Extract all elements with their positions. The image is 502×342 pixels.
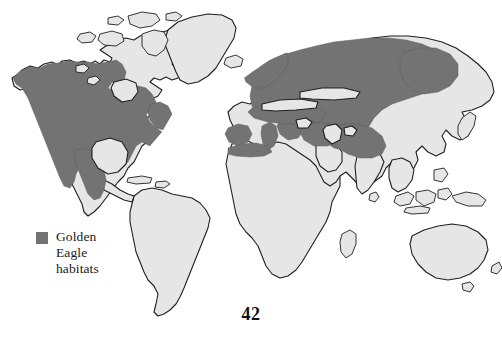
landmass-australia	[410, 224, 488, 280]
landmass-sulawesi	[438, 188, 452, 200]
golden-eagle-habitat-map-figure: .land { fill: #e6e6e6; stroke: #1f1f1f; …	[0, 0, 502, 342]
landmass-sumatra	[394, 192, 414, 206]
landmass-madagascar	[340, 230, 356, 258]
world-map: .land { fill: #e6e6e6; stroke: #1f1f1f; …	[0, 0, 502, 342]
landmass-tasmania	[462, 282, 474, 292]
landmass-ellesmere-island	[128, 12, 160, 28]
legend-label: Golden Eagle habitats	[56, 229, 99, 277]
landmass-hispaniola	[155, 181, 170, 188]
landmass-cuba	[127, 176, 152, 184]
landmass-sri-lanka	[369, 192, 379, 202]
landmass-java	[404, 206, 430, 214]
landmass-south-america	[130, 188, 210, 316]
landmass-new-guinea	[452, 192, 486, 206]
landmass-southeast-asia	[389, 158, 414, 192]
landmass-banks-island	[77, 32, 96, 43]
landmass-borneo	[416, 190, 436, 206]
page-number: 42	[0, 304, 502, 325]
landmass-philippines	[434, 168, 448, 182]
landmass-arctic-islet-b	[166, 12, 182, 21]
habitat-range-swatch	[36, 232, 48, 244]
map-legend: Golden Eagle habitats	[36, 229, 99, 277]
landmass-victoria-island	[98, 31, 124, 46]
landmass-iceland	[224, 55, 243, 68]
landmass-new-zealand-north	[491, 262, 502, 274]
landmass-arctic-islet-a	[108, 16, 124, 25]
